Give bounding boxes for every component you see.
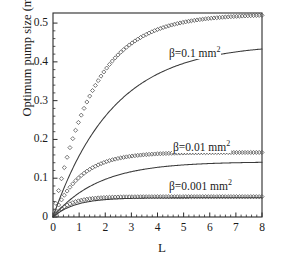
x-tick-label: 8 [253, 221, 271, 233]
beta-0p001-label: β=0.001 mm2 [168, 178, 233, 192]
beta-0p001-label-exponent: 2 [228, 178, 232, 187]
data-marker [251, 150, 255, 154]
data-marker [246, 14, 250, 18]
data-marker [232, 150, 236, 154]
beta-0p1-label-exponent: 2 [216, 45, 220, 54]
data-marker [57, 189, 61, 193]
data-marker [249, 150, 253, 154]
x-tick-label: 3 [122, 221, 140, 233]
data-marker [68, 146, 72, 150]
data-marker [105, 66, 109, 70]
y-tick-label: 0.3 [14, 94, 48, 106]
data-marker [71, 182, 75, 186]
data-marker [107, 62, 111, 66]
beta-0p001-label-text: β=0.001 mm [169, 180, 228, 192]
data-marker [96, 79, 100, 83]
data-marker [144, 32, 148, 36]
beta-0p1-label: β=0.1 mm2 [168, 45, 221, 59]
x-tick-label: 2 [96, 221, 114, 233]
data-marker [82, 106, 86, 110]
data-marker [237, 150, 241, 154]
data-marker [62, 193, 66, 197]
data-marker [74, 179, 78, 183]
beta-0p01-label: β=0.01 mm2 [172, 139, 231, 153]
data-marker [110, 59, 114, 63]
beta-0p01-label-text: β=0.01 mm [173, 141, 226, 153]
data-marker [90, 89, 94, 93]
y-tick-label: 0 [14, 210, 48, 222]
series-markers-0 [54, 13, 264, 205]
data-marker [164, 151, 168, 155]
data-marker [62, 166, 66, 170]
data-marker [102, 70, 106, 74]
x-tick-label: 5 [175, 221, 193, 233]
x-axis-label: L [0, 240, 286, 256]
data-marker [243, 150, 247, 154]
data-marker [254, 13, 258, 17]
data-marker [99, 74, 103, 78]
x-tick-label: 0 [44, 221, 62, 233]
data-marker [235, 150, 239, 154]
figure-chart: Optimum pump size (mm) L 01234567800.10.… [0, 0, 286, 264]
data-marker [257, 13, 261, 17]
data-marker [93, 164, 97, 168]
x-tick-label: 7 [227, 221, 245, 233]
data-marker [93, 83, 97, 87]
x-tick-label: 4 [149, 221, 167, 233]
x-tick-label: 6 [201, 221, 219, 233]
data-marker [74, 128, 78, 132]
data-marker [249, 14, 253, 18]
data-marker [161, 152, 165, 156]
data-marker [116, 53, 120, 57]
beta-0p1-label-text: β=0.1 mm [169, 47, 216, 59]
data-marker [113, 56, 117, 60]
data-marker [243, 14, 247, 18]
y-tick-label: 0.1 [14, 171, 48, 183]
data-marker [65, 155, 69, 159]
data-marker [257, 150, 261, 154]
data-marker [79, 113, 83, 117]
data-marker [246, 150, 250, 154]
data-marker [167, 151, 171, 155]
x-axis-label-text: L [120, 240, 166, 256]
data-marker [59, 177, 63, 181]
data-marker [88, 94, 92, 98]
data-marker [85, 100, 89, 104]
data-marker [76, 120, 80, 124]
data-marker [251, 14, 255, 18]
data-marker [71, 137, 75, 141]
beta-0p01-label-exponent: 2 [226, 139, 230, 148]
data-marker [254, 150, 258, 154]
data-marker [65, 189, 69, 193]
y-tick-label: 0.4 [14, 55, 48, 67]
data-marker [68, 185, 72, 189]
x-tick-label: 1 [70, 221, 88, 233]
data-marker [240, 150, 244, 154]
y-tick-label: 0.2 [14, 132, 48, 144]
y-tick-label: 0.5 [14, 16, 48, 28]
